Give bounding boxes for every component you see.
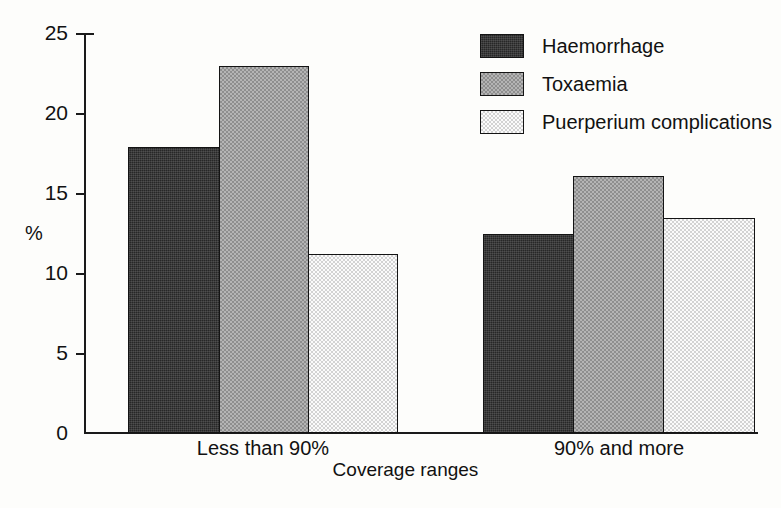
bar-puerperium-less-than-90	[308, 254, 398, 433]
legend-label-puerperium: Puerperium complications	[542, 108, 772, 136]
y-tick-5	[76, 353, 85, 355]
y-tick-label-15: 15	[24, 182, 68, 203]
y-tick-label-0: 0	[24, 422, 68, 443]
bar-toxaemia-90-and-more	[573, 176, 664, 433]
y-axis-title: %	[25, 222, 43, 245]
y-tick-label-5: 5	[24, 342, 68, 363]
bar-haemorrhage-90-and-more	[483, 234, 574, 434]
bar-haemorrhage-less-than-90	[128, 147, 220, 433]
bar-chart: 25 20 15 10 5 0 % Coverage ranges Less t…	[0, 0, 781, 508]
x-category-label-2: 90% and more	[524, 437, 714, 460]
y-tick-label-10: 10	[24, 262, 68, 283]
legend-label-haemorrhage: Haemorrhage	[542, 32, 664, 60]
legend-label-toxaemia: Toxaemia	[542, 70, 628, 98]
y-tick-10	[76, 273, 85, 275]
bar-puerperium-90-and-more	[663, 218, 755, 434]
x-axis-title: Coverage ranges	[0, 459, 781, 481]
legend-swatch-mid-icon	[480, 72, 524, 96]
y-tick-20	[76, 113, 85, 115]
y-tick-label-20: 20	[24, 102, 68, 123]
y-tick-label-25: 25	[24, 22, 68, 43]
legend-swatch-light-icon	[480, 110, 524, 134]
bar-toxaemia-less-than-90	[219, 66, 309, 433]
y-tick-25	[76, 33, 85, 35]
legend-swatch-dark-icon	[480, 34, 524, 58]
y-tick-15	[76, 193, 85, 195]
x-category-label-1: Less than 90%	[168, 437, 358, 460]
plot-area	[85, 34, 755, 433]
